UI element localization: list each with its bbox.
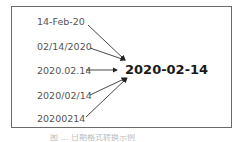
figure-caption: 图 ... 日期格式转换示例 [50,134,200,142]
arrow-2 [90,48,125,60]
arrow-4 [90,78,126,95]
conversion-arrows [0,0,241,142]
arrow-1 [88,25,125,60]
arrow-5 [86,78,127,117]
